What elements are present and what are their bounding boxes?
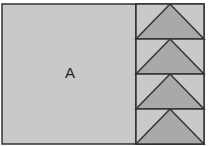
region-a-label: A [60, 64, 80, 81]
diagram-canvas [0, 0, 209, 146]
triangle-row-2 [136, 39, 204, 74]
triangle-row-3 [136, 74, 204, 109]
triangle-row-1 [136, 4, 204, 39]
triangle-row-4 [136, 109, 204, 144]
